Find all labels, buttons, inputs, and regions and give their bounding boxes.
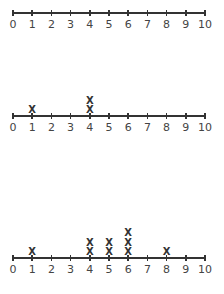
x-mark: X: [124, 238, 132, 248]
tick-label: 2: [48, 19, 55, 31]
x-mark: X: [124, 247, 132, 257]
tick-label: 3: [67, 264, 74, 276]
tick-mark: [70, 255, 72, 261]
tick-label: 3: [67, 19, 74, 31]
tick-mark: [89, 10, 91, 16]
tick-label: 4: [86, 264, 93, 276]
tick-mark: [147, 113, 149, 119]
tick-mark: [166, 113, 168, 119]
tick-mark: [204, 113, 206, 119]
tick-label: 6: [125, 19, 132, 31]
tick-label: 10: [198, 19, 212, 31]
tick-mark: [127, 113, 129, 119]
tick-mark: [147, 10, 149, 16]
tick-mark: [166, 10, 168, 16]
x-mark: X: [86, 105, 94, 115]
tick-label: 5: [106, 19, 113, 31]
tick-label: 5: [106, 122, 113, 134]
tick-label: 8: [163, 122, 170, 134]
tick-label: 8: [163, 264, 170, 276]
tick-label: 7: [144, 122, 151, 134]
tick-mark: [12, 113, 14, 119]
tick-label: 7: [144, 19, 151, 31]
tick-mark: [70, 113, 72, 119]
tick-mark: [31, 10, 33, 16]
tick-mark: [70, 10, 72, 16]
tick-mark: [51, 255, 53, 261]
x-mark: X: [163, 247, 171, 257]
tick-mark: [108, 113, 110, 119]
x-mark: X: [105, 238, 113, 248]
tick-label: 3: [67, 122, 74, 134]
tick-mark: [204, 255, 206, 261]
tick-mark: [147, 255, 149, 261]
tick-mark: [51, 10, 53, 16]
tick-mark: [108, 10, 110, 16]
tick-mark: [127, 10, 129, 16]
tick-label: 1: [29, 19, 36, 31]
tick-label: 2: [48, 122, 55, 134]
tick-label: 9: [182, 264, 189, 276]
x-mark: X: [28, 247, 36, 257]
x-mark: X: [28, 105, 36, 115]
tick-label: 4: [86, 122, 93, 134]
x-mark: X: [105, 247, 113, 257]
x-mark: X: [86, 96, 94, 106]
x-mark: X: [86, 247, 94, 257]
tick-label: 0: [10, 122, 17, 134]
tick-label: 1: [29, 122, 36, 134]
x-mark: X: [124, 228, 132, 238]
tick-mark: [185, 255, 187, 261]
tick-label: 7: [144, 264, 151, 276]
tick-label: 0: [10, 264, 17, 276]
tick-label: 5: [106, 264, 113, 276]
tick-label: 1: [29, 264, 36, 276]
tick-mark: [12, 10, 14, 16]
tick-label: 6: [125, 122, 132, 134]
tick-label: 9: [182, 19, 189, 31]
tick-label: 10: [198, 122, 212, 134]
tick-mark: [185, 10, 187, 16]
tick-mark: [51, 113, 53, 119]
tick-label: 8: [163, 19, 170, 31]
tick-mark: [185, 113, 187, 119]
tick-label: 0: [10, 19, 17, 31]
tick-label: 4: [86, 19, 93, 31]
tick-label: 10: [198, 264, 212, 276]
tick-label: 6: [125, 264, 132, 276]
tick-mark: [12, 255, 14, 261]
tick-label: 9: [182, 122, 189, 134]
x-mark: X: [86, 238, 94, 248]
tick-label: 2: [48, 264, 55, 276]
tick-mark: [204, 10, 206, 16]
